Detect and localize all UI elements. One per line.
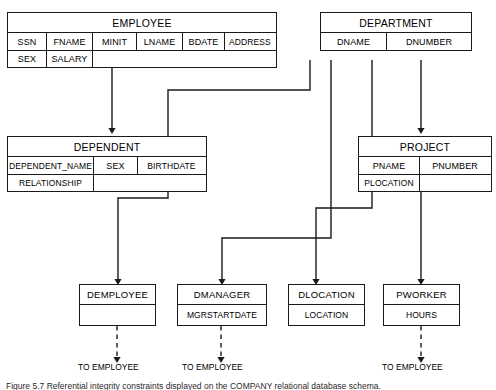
attribute-mgrstartdate[interactable]: MGRSTARTDATE [178, 305, 266, 325]
relation-title-employee: EMPLOYEE [8, 13, 276, 33]
attribute-pname[interactable]: PNAME [359, 157, 420, 174]
attribute-relationship[interactable]: RELATIONSHIP [8, 175, 94, 191]
relation-dlocation[interactable]: DLOCATION LOCATION [288, 284, 365, 326]
attribute-sex[interactable]: SEX [8, 51, 47, 67]
reference-label-to-employee-3: TO EMPLOYEE [382, 362, 443, 372]
attribute-hours[interactable]: HOURS [384, 305, 459, 325]
attribute-demployee-blank[interactable] [80, 305, 155, 325]
attribute-row [80, 305, 155, 325]
relation-title-pworker: PWORKER [384, 285, 459, 305]
relation-title-demployee: DEMPLOYEE [80, 285, 155, 305]
attribute-ssn[interactable]: SSN [8, 33, 47, 50]
attribute-dnumber[interactable]: DNUMBER [387, 33, 471, 50]
relation-employee[interactable]: EMPLOYEE SSN FNAME MINIT LNAME BDATE ADD… [7, 12, 277, 68]
attribute-fname[interactable]: FNAME [47, 33, 93, 50]
attribute-address[interactable]: ADDRESS [225, 33, 275, 50]
relation-pworker[interactable]: PWORKER HOURS [383, 284, 460, 326]
attribute-salary[interactable]: SALARY [47, 51, 93, 67]
figure-caption: Figure 5.7 Referential integrity constra… [6, 381, 492, 390]
relation-title-project: PROJECT [359, 137, 491, 157]
attribute-minit[interactable]: MINIT [93, 33, 137, 50]
attribute-sex[interactable]: SEX [94, 157, 138, 174]
attribute-spacer [94, 175, 205, 191]
relation-dependent[interactable]: DEPENDENT DEPENDENT_NAME SEX BIRTHDATE R… [7, 136, 207, 192]
schema-diagram-canvas: EMPLOYEE SSN FNAME MINIT LNAME BDATE ADD… [0, 0, 496, 390]
wire-department-dname-to-dmanager [222, 60, 331, 282]
attribute-row: MGRSTARTDATE [178, 305, 266, 325]
attribute-row: SEX SALARY [8, 50, 276, 67]
relation-dmanager[interactable]: DMANAGER MGRSTARTDATE [177, 284, 267, 326]
attribute-row: RELATIONSHIP [8, 174, 206, 191]
reference-label-to-employee-1: TO EMPLOYEE [78, 362, 139, 372]
relation-department[interactable]: DEPARTMENT DNAME DNUMBER [320, 12, 472, 51]
attribute-pnumber[interactable]: PNUMBER [420, 157, 490, 174]
attribute-row: PLOCATION [359, 174, 491, 191]
attribute-row: DEPENDENT_NAME SEX BIRTHDATE [8, 157, 206, 174]
attribute-dname[interactable]: DNAME [321, 33, 387, 50]
relation-demployee[interactable]: DEMPLOYEE [79, 284, 156, 326]
attribute-lname[interactable]: LNAME [137, 33, 183, 50]
attribute-row: HOURS [384, 305, 459, 325]
relation-title-department: DEPARTMENT [321, 13, 471, 33]
relation-title-dependent: DEPENDENT [8, 137, 206, 157]
attribute-spacer [420, 175, 490, 191]
attribute-row: LOCATION [289, 305, 364, 325]
attribute-birthdate[interactable]: BIRTHDATE [138, 157, 205, 174]
attribute-dependent-name[interactable]: DEPENDENT_NAME [8, 157, 94, 174]
attribute-bdate[interactable]: BDATE [183, 33, 225, 50]
relation-project[interactable]: PROJECT PNAME PNUMBER PLOCATION [358, 136, 492, 192]
attribute-spacer [93, 51, 275, 67]
attribute-row: SSN FNAME MINIT LNAME BDATE ADDRESS [8, 33, 276, 50]
reference-label-to-employee-2: TO EMPLOYEE [182, 362, 243, 372]
attribute-row: DNAME DNUMBER [321, 33, 471, 50]
relation-title-dlocation: DLOCATION [289, 285, 364, 305]
attribute-location[interactable]: LOCATION [289, 305, 364, 325]
attribute-row: PNAME PNUMBER [359, 157, 491, 174]
attribute-plocation[interactable]: PLOCATION [359, 175, 420, 191]
relation-title-dmanager: DMANAGER [178, 285, 266, 305]
